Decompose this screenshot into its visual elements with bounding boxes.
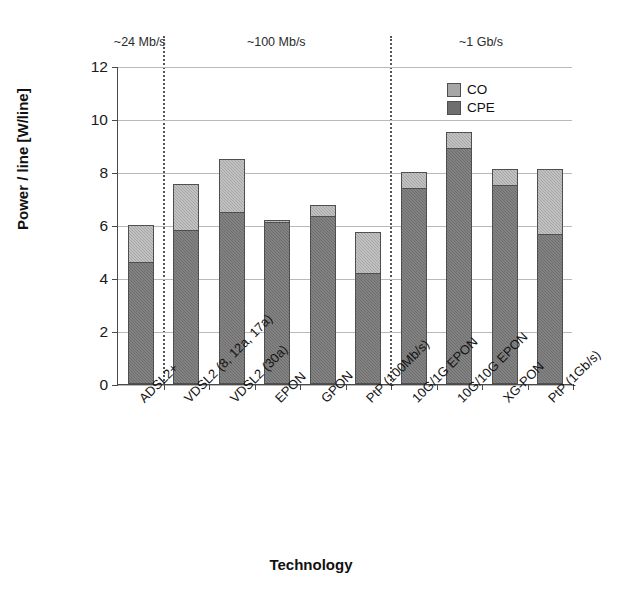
y-axis-tick-label: 8 — [99, 164, 108, 182]
legend-label: CPE — [467, 100, 495, 115]
bar-segment-co — [401, 172, 427, 188]
y-axis-tick-label: 2 — [99, 323, 108, 341]
legend-item: CO — [447, 82, 495, 97]
bar-segment-co — [310, 205, 336, 216]
bar-series — [118, 67, 572, 384]
bar-segment-co — [537, 169, 563, 234]
bar-ptp-1gb-s[interactable] — [537, 169, 563, 384]
bar-segment-co — [219, 159, 245, 212]
bar-segment-cpe — [173, 230, 199, 384]
y-axis-tick-label: 12 — [91, 58, 108, 76]
bar-segment-co — [173, 184, 199, 230]
chart-figure: ~24 Mb/s ~100 Mb/s ~1 Gb/s 024681012 ADS… — [0, 0, 622, 615]
bar-segment-co — [355, 232, 381, 273]
bar-segment-cpe — [537, 234, 563, 384]
x-axis-title: Technology — [0, 556, 622, 573]
bar-vdsl2-8-12a-17a[interactable] — [173, 184, 199, 384]
legend-swatch-cpe — [447, 101, 461, 115]
bar-segment-cpe — [310, 216, 336, 384]
bar-segment-cpe — [355, 273, 381, 384]
bar-adsl2[interactable] — [128, 225, 154, 384]
bar-ptp-100mb-s[interactable] — [355, 232, 381, 384]
plot-area: 024681012 — [117, 67, 572, 385]
bar-segment-co — [446, 132, 472, 148]
group-label-100mbs: ~100 Mb/s — [216, 35, 336, 49]
bar-segment-co — [492, 169, 518, 185]
bar-gpon[interactable] — [310, 205, 336, 384]
group-label-24mbs: ~24 Mb/s — [80, 35, 200, 49]
y-axis-tick-label: 4 — [99, 270, 108, 288]
y-axis-tick-label: 0 — [99, 376, 108, 394]
y-axis-title: Power / line [W/line] — [14, 88, 31, 230]
legend-item: CPE — [447, 100, 495, 115]
chart-legend: COCPE — [447, 82, 495, 115]
legend-swatch-co — [447, 83, 461, 97]
group-label-1gbs: ~1 Gb/s — [421, 35, 541, 49]
y-axis-tick-label: 6 — [99, 217, 108, 235]
y-axis-tick — [112, 385, 118, 386]
bar-segment-cpe — [128, 262, 154, 384]
legend-label: CO — [467, 82, 487, 97]
y-axis-tick-label: 10 — [91, 111, 108, 129]
bar-segment-co — [128, 225, 154, 262]
